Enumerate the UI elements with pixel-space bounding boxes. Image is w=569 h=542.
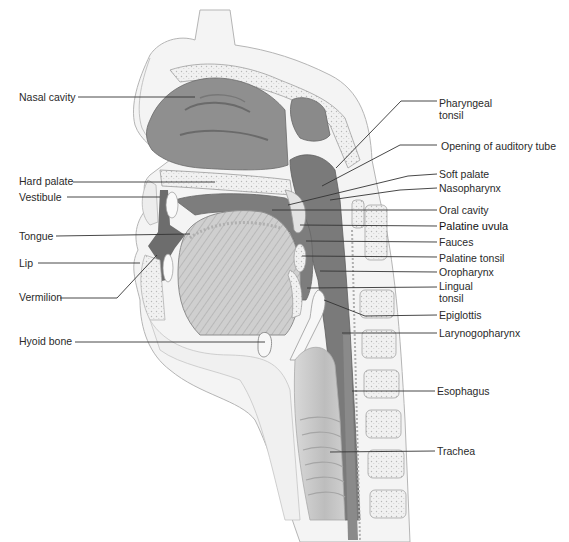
label-opening-auditory-tube: Opening of auditory tube: [441, 140, 556, 152]
label-lingual-tonsil: Lingual tonsil: [439, 280, 499, 304]
palatine-tonsil-region: [294, 244, 306, 272]
label-vestibule: Vestibule: [19, 191, 62, 203]
label-vermilion: Vermilion: [19, 291, 62, 303]
label-palatine-uvula: Palatine uvula: [439, 220, 508, 232]
label-esophagus: Esophagus: [437, 385, 490, 397]
label-nasopharynx: Nasopharynx: [439, 182, 501, 194]
label-palatine-tonsil: Palatine tonsil: [439, 252, 504, 264]
label-nasal-cavity: Nasal cavity: [19, 91, 76, 103]
hyoid-bone-shape: [258, 332, 272, 356]
label-pharyngeal-tonsil: Pharyngeal tonsil: [439, 97, 499, 121]
upper-incisor: [166, 192, 178, 218]
lower-incisor: [163, 254, 173, 282]
label-tongue: Tongue: [19, 230, 53, 242]
label-soft-palate: Soft palate: [439, 168, 489, 180]
label-hyoid-bone: Hyoid bone: [19, 335, 72, 347]
label-trachea: Trachea: [437, 445, 475, 457]
label-lip: Lip: [19, 257, 33, 269]
label-hard-palate: Hard palate: [19, 175, 73, 187]
label-laryngopharynx: Larynogopharynx: [439, 327, 520, 339]
label-oropharynx: Oropharynx: [439, 266, 494, 278]
label-fauces: Fauces: [439, 236, 473, 248]
label-oral-cavity: Oral cavity: [439, 204, 489, 216]
label-epiglottis: Epiglottis: [439, 309, 482, 321]
tongue-region: [178, 211, 300, 335]
